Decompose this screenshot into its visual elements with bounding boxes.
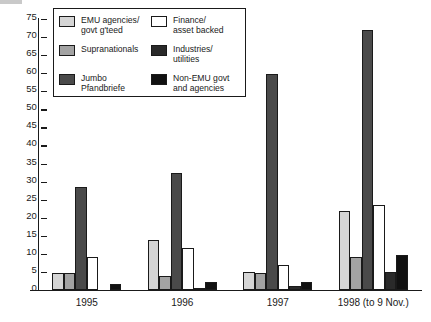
swatch-industries-utilities-icon (151, 45, 167, 56)
bar-non-emu-govt-2 (301, 282, 313, 290)
bar-supranationals-0 (64, 273, 76, 290)
y-tick-label: 55 (26, 84, 37, 94)
chart-legend: EMU agencies/ govt g'teedSupranationalsJ… (53, 8, 246, 97)
x-axis-label-1: 1996 (135, 297, 231, 308)
bar-finance-asset-backed-0 (87, 257, 99, 290)
legend-item-non-emu-govt[interactable]: Non-EMU govt and agencies (151, 73, 245, 95)
y-tick-label: 75 (26, 12, 37, 22)
bar-industries-utilities-3 (385, 272, 397, 290)
x-axis-line (30, 290, 422, 291)
y-tick-label: 0 (32, 283, 37, 293)
swatch-emu-agencies-icon (59, 16, 75, 27)
y-tick-label: 35 (26, 157, 37, 167)
bar-non-emu-govt-0 (110, 284, 122, 290)
y-tick-label: 30 (26, 175, 37, 185)
bar-non-emu-govt-1 (205, 282, 217, 290)
y-tick-label: 10 (26, 247, 37, 257)
bar-jumbo-pfandbriefe-0 (75, 187, 87, 290)
legend-column-right: Finance/ asset backedIndustries/ utiliti… (151, 15, 245, 102)
bar-chart: 051015202530354045505560657075 199519961… (0, 0, 431, 322)
x-axis-label-3: 1998 (to 9 Nov.) (326, 297, 422, 308)
y-tick-label: 40 (26, 138, 37, 148)
bar-finance-asset-backed-3 (373, 205, 385, 290)
legend-item-finance-asset-backed[interactable]: Finance/ asset backed (151, 15, 245, 37)
y-tick-mark (41, 290, 47, 291)
bar-supranationals-1 (159, 276, 171, 290)
legend-label: EMU agencies/ govt g'teed (81, 15, 139, 35)
bar-industries-utilities-1 (194, 288, 206, 290)
y-tick-label: 70 (26, 30, 37, 40)
y-tick-label: 65 (26, 48, 37, 58)
y-tick-label: 45 (26, 120, 37, 130)
y-tick-label: 60 (26, 66, 37, 76)
y-tick-label: 20 (26, 211, 37, 221)
legend-label: Non-EMU govt and agencies (173, 73, 229, 93)
scan-artifact-mark (0, 0, 22, 4)
bar-emu-agencies-3 (339, 211, 351, 290)
y-tick-label: 5 (32, 265, 37, 275)
bar-supranationals-2 (255, 273, 267, 290)
bar-group-1998-to-9-nov- (326, 19, 422, 290)
swatch-supranationals-icon (59, 45, 75, 56)
swatch-non-emu-govt-icon (151, 74, 167, 85)
bar-jumbo-pfandbriefe-2 (266, 74, 278, 290)
bar-jumbo-pfandbriefe-1 (171, 173, 183, 290)
bar-emu-agencies-1 (148, 240, 160, 290)
legend-item-supranationals[interactable]: Supranationals (59, 44, 151, 66)
legend-item-emu-agencies[interactable]: EMU agencies/ govt g'teed (59, 15, 151, 37)
bar-emu-agencies-2 (243, 272, 255, 290)
bar-jumbo-pfandbriefe-3 (362, 30, 374, 290)
y-tick-label: 15 (26, 229, 37, 239)
bar-industries-utilities-2 (289, 286, 301, 290)
legend-item-industries-utilities[interactable]: Industries/ utilities (151, 44, 245, 66)
swatch-finance-asset-backed-icon (151, 16, 167, 27)
legend-column-left: EMU agencies/ govt g'teedSupranationalsJ… (59, 15, 151, 102)
bar-supranationals-3 (350, 257, 362, 290)
bar-finance-asset-backed-2 (278, 265, 290, 290)
x-axis-label-0: 1995 (39, 297, 135, 308)
legend-label: Finance/ asset backed (173, 15, 224, 35)
y-tick-label: 25 (26, 193, 37, 203)
legend-label: Industries/ utilities (173, 44, 213, 64)
bar-non-emu-govt-3 (396, 255, 408, 290)
legend-label: Supranationals (81, 44, 138, 54)
y-tick-label: 50 (26, 102, 37, 112)
legend-label: Jumbo Pfandbriefe (81, 73, 125, 93)
bar-finance-asset-backed-1 (182, 248, 194, 290)
bar-emu-agencies-0 (52, 273, 64, 290)
x-axis-label-2: 1997 (230, 297, 326, 308)
swatch-jumbo-pfandbriefe-icon (59, 74, 75, 85)
legend-item-jumbo-pfandbriefe[interactable]: Jumbo Pfandbriefe (59, 73, 151, 95)
